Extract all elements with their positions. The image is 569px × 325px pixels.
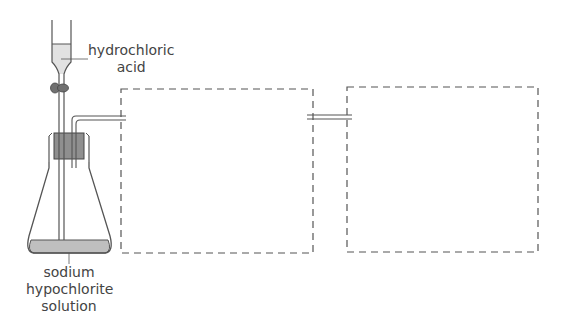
solution-label-line1: sodium [26, 264, 112, 281]
connecting-tube [307, 115, 352, 119]
acid-label-line2: acid [88, 59, 174, 76]
tap-icon [51, 83, 69, 93]
acid-label: hydrochloric acid [88, 42, 174, 76]
solution-label: sodium hypochlorite solution [26, 264, 112, 315]
solution-label-line2: hypochlorite [26, 281, 112, 298]
flask-liquid [29, 240, 109, 253]
dashed-box-1 [121, 89, 313, 253]
acid-label-line1: hydrochloric [88, 42, 174, 59]
solution-label-line3: solution [26, 298, 112, 315]
conical-flask [28, 162, 111, 253]
dashed-box-2 [347, 87, 538, 252]
